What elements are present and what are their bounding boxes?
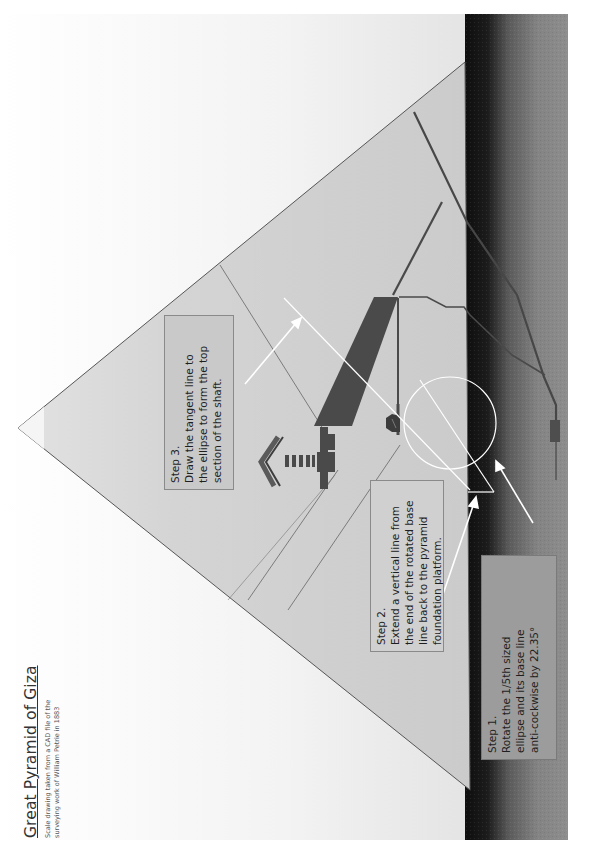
step3-callout: Step 3. Draw the tangent line to the ell… bbox=[164, 315, 234, 490]
queens-chamber bbox=[386, 414, 400, 432]
step3-line-3: section of the shaft. bbox=[210, 322, 224, 483]
step2-heading: Step 2. bbox=[374, 487, 388, 645]
step3-line-2: the ellipse to form the top bbox=[196, 322, 210, 483]
subtitle-line-1: Scale drawing taken from a CAD file of t… bbox=[44, 578, 53, 838]
step1-line-1: Rotate the 1/5th sized bbox=[499, 562, 513, 753]
step3-line-1: Draw the tangent line to bbox=[182, 322, 196, 483]
step1-line-3: anti-cockwise by 22.35° bbox=[527, 562, 541, 753]
page-title: Great Pyramid of Giza bbox=[22, 578, 41, 838]
step1-callout: Step 1. Rotate the 1/5th sized ellipse a… bbox=[481, 555, 557, 760]
step2-line-4: foundation platform. bbox=[430, 487, 444, 645]
step1-line-2: ellipse and its base line bbox=[513, 562, 527, 753]
step3-heading: Step 3. bbox=[168, 322, 182, 483]
subtitle-line-2: surveying work of William Petrie in 1883 bbox=[53, 578, 62, 838]
step2-callout: Step 2. Extend a vertical line from the … bbox=[370, 480, 444, 652]
subterranean-chamber bbox=[550, 420, 560, 442]
step2-line-2: the end of the rotated base bbox=[402, 487, 416, 645]
title-block: Great Pyramid of Giza Scale drawing take… bbox=[22, 578, 62, 838]
step2-line-1: Extend a vertical line from bbox=[388, 487, 402, 645]
step1-heading: Step 1. bbox=[485, 562, 499, 753]
step2-line-3: line back to the pyramid bbox=[416, 487, 430, 645]
